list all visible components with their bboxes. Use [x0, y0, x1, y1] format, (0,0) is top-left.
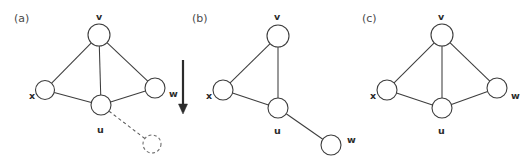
node-x	[377, 80, 397, 100]
edge-x-u	[233, 93, 269, 105]
node-label-x: x	[206, 90, 212, 101]
panels-layer: vxwu(a)vxuw(b)vxwu(c)	[14, 11, 520, 155]
edge-v-w	[450, 43, 490, 81]
edge-u-ghost	[109, 111, 145, 138]
node-w	[321, 135, 341, 155]
edge-u-w	[451, 91, 487, 104]
edge-v-w	[107, 43, 148, 82]
edge-v-x	[230, 44, 270, 83]
down-arrow-head	[179, 104, 188, 114]
edge-u-w	[286, 114, 323, 140]
edge-x-u	[54, 92, 91, 102]
node-v	[431, 24, 453, 46]
node-w	[145, 78, 165, 98]
node-v	[267, 25, 289, 47]
node-ghost	[143, 135, 161, 153]
panel-label-b: (b)	[192, 12, 208, 25]
edge-v-u	[99, 46, 100, 95]
edge-x-u	[397, 93, 433, 105]
panel-label-a: (a)	[14, 12, 29, 25]
node-label-v: v	[274, 11, 281, 22]
node-v	[88, 24, 110, 46]
edge-v-x	[52, 43, 92, 83]
node-label-u: u	[438, 125, 445, 136]
node-w	[487, 78, 507, 98]
node-x	[213, 80, 233, 100]
node-label-x: x	[370, 90, 376, 101]
graph-figure-canvas: vxwu(a)vxuw(b)vxwu(c)	[0, 0, 529, 163]
node-label-w: w	[169, 88, 178, 99]
node-label-w: w	[511, 90, 520, 101]
arrow-layer	[179, 60, 188, 114]
node-label-w: w	[347, 134, 356, 145]
node-label-u: u	[274, 125, 281, 136]
panel-label-c: (c)	[362, 12, 377, 25]
node-label-u: u	[97, 124, 104, 135]
panel-b: vxuw(b)	[192, 11, 356, 155]
node-u	[91, 95, 111, 115]
node-label-v: v	[96, 11, 103, 22]
edge-v-x	[394, 43, 434, 83]
node-u	[432, 98, 452, 118]
panel-a: vxwu(a)	[14, 11, 178, 153]
node-label-x: x	[29, 90, 35, 101]
figure-root: vxwu(a)vxuw(b)vxwu(c)	[0, 0, 529, 163]
edge-u-w	[111, 91, 146, 102]
panel-c: vxwu(c)	[362, 11, 520, 136]
node-x	[36, 81, 55, 100]
node-label-v: v	[438, 11, 445, 22]
node-u	[268, 98, 288, 118]
